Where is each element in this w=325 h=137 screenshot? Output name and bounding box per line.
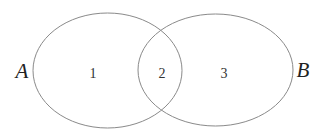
region-3-label: 3 (221, 66, 228, 81)
set-a-label: A (14, 59, 29, 83)
region-1-label: 1 (90, 66, 97, 81)
set-b-label: B (297, 58, 310, 82)
region-2-label: 2 (159, 66, 166, 81)
venn-diagram: A B 1 2 3 (0, 0, 325, 137)
